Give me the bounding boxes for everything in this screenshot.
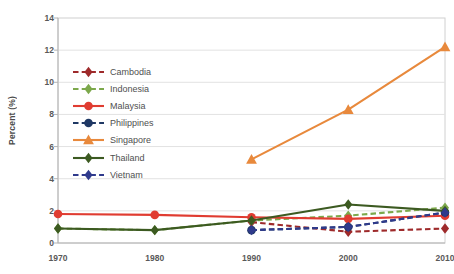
legend-label: Cambodia (110, 67, 151, 77)
data-point-marker (84, 102, 93, 111)
data-point-marker (54, 210, 63, 219)
legend-swatch-malaysia-icon (72, 99, 105, 113)
legend-label: Indonesia (110, 84, 149, 94)
legend-swatch-singapore-icon (72, 133, 105, 147)
legend-item-indonesia[interactable]: Indonesia (72, 80, 154, 97)
legend-label: Malaysia (110, 101, 146, 111)
data-point-marker (84, 170, 92, 180)
legend-swatch-indonesia-icon (72, 82, 105, 96)
data-point-marker (84, 152, 92, 162)
legend-item-singapore[interactable]: Singapore (72, 132, 154, 149)
legend-label: Philippines (110, 118, 154, 128)
data-point-marker (84, 66, 92, 76)
legend-item-malaysia[interactable]: Malaysia (72, 97, 154, 114)
legend-item-thailand[interactable]: Thailand (72, 149, 154, 166)
legend-label: Thailand (110, 153, 145, 163)
line-chart: Percent (%) 02468101214 1970198019902000… (0, 0, 454, 274)
chart-legend: CambodiaIndonesiaMalaysiaPhilippinesSing… (72, 63, 154, 183)
legend-label: Singapore (110, 135, 151, 145)
legend-item-cambodia[interactable]: Cambodia (72, 63, 154, 80)
legend-swatch-thailand-icon (72, 151, 105, 165)
plot-area (0, 0, 454, 274)
legend-swatch-cambodia-icon (72, 65, 105, 79)
legend-item-vietnam[interactable]: Vietnam (72, 166, 154, 183)
legend-swatch-vietnam-icon (72, 168, 105, 182)
legend-item-philippines[interactable]: Philippines (72, 115, 154, 132)
legend-label: Vietnam (110, 170, 143, 180)
data-point-marker (84, 119, 93, 128)
legend-swatch-philippines-icon (72, 116, 105, 130)
data-point-marker (84, 84, 92, 94)
data-point-marker (150, 211, 159, 220)
